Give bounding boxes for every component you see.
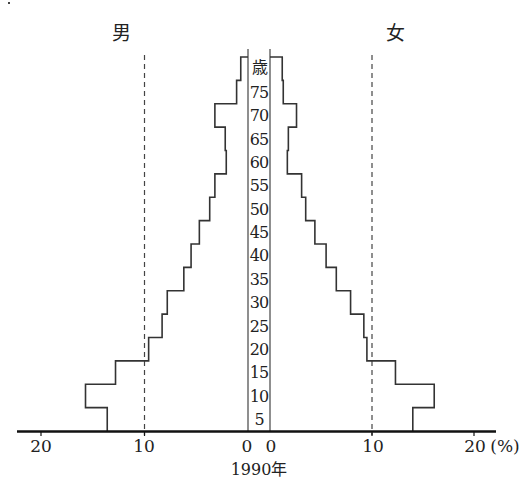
age-label-25: 25 <box>248 319 270 335</box>
age-label-75: 75 <box>248 85 270 101</box>
age-label-5: 5 <box>248 412 270 428</box>
age-label-55: 55 <box>248 178 270 194</box>
x-tick-left-20: 20 <box>30 436 52 456</box>
age-label-50: 50 <box>248 202 270 218</box>
x-tick-right-10: 10 <box>362 436 384 456</box>
male-label: 男 <box>112 18 131 45</box>
female-label: 女 <box>386 18 405 45</box>
x-tick-right-0: 0 <box>266 436 277 456</box>
age-label-40: 40 <box>248 248 270 264</box>
female-outline <box>270 57 434 431</box>
age-label-30: 30 <box>248 295 270 311</box>
age-label-45: 45 <box>248 225 270 241</box>
percent-unit-label: (%) <box>490 436 519 456</box>
male-outline <box>86 57 248 431</box>
age-label-15: 15 <box>248 365 270 381</box>
age-label-35: 35 <box>248 272 270 288</box>
x-tick-right-20: 20 <box>464 436 486 456</box>
age-label-65: 65 <box>248 132 270 148</box>
age-unit-label: 歳 <box>248 60 270 76</box>
age-label-20: 20 <box>248 342 270 358</box>
age-label-60: 60 <box>248 155 270 171</box>
age-label-70: 70 <box>248 108 270 124</box>
x-tick-left-10: 10 <box>133 436 155 456</box>
age-label-10: 10 <box>248 389 270 405</box>
x-tick-left-0: 0 <box>242 436 253 456</box>
year-label: 1990年 <box>231 456 288 480</box>
